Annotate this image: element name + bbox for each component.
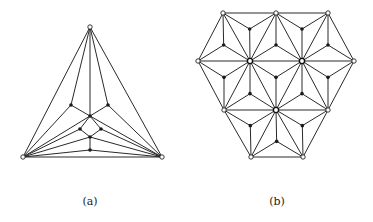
- edge: [276, 13, 302, 61]
- edge: [223, 13, 250, 61]
- vertex-open: [301, 155, 305, 159]
- vertex-open: [160, 155, 164, 159]
- edge: [198, 13, 223, 61]
- vertex-filled: [326, 76, 330, 80]
- edge: [71, 105, 90, 116]
- edge: [23, 27, 90, 157]
- panel-label-b: (b): [269, 195, 285, 208]
- edge: [90, 116, 101, 129]
- vertex-open: [274, 11, 278, 15]
- edge: [302, 126, 303, 157]
- edge: [302, 13, 328, 61]
- edge: [198, 61, 224, 110]
- vertex-filled: [248, 92, 252, 96]
- vertex-filled: [88, 135, 92, 139]
- edge: [224, 110, 251, 157]
- vertex-open: [299, 58, 304, 63]
- vertex-filled: [222, 43, 226, 47]
- edge: [250, 61, 276, 110]
- vertex-filled: [301, 124, 305, 128]
- edge: [328, 61, 354, 110]
- edge: [80, 129, 90, 137]
- vertex-open: [273, 107, 278, 112]
- edge: [71, 27, 90, 105]
- vertex-filled: [88, 148, 92, 152]
- panel-label-a: (a): [82, 195, 97, 208]
- vertex-filled: [274, 43, 278, 47]
- vertex-filled: [69, 103, 73, 107]
- edge: [224, 61, 250, 110]
- vertex-open: [249, 155, 253, 159]
- vertex-filled: [274, 76, 278, 80]
- vertex-filled: [222, 76, 226, 80]
- vertex-open: [221, 11, 225, 15]
- vertex-open: [326, 11, 330, 15]
- edge: [276, 110, 303, 157]
- edge: [90, 105, 108, 116]
- edge: [250, 13, 276, 61]
- edge: [90, 27, 162, 157]
- vertex-filled: [275, 140, 279, 144]
- edge: [223, 13, 224, 45]
- figure-canvas: [0, 0, 373, 222]
- vertex-open: [352, 59, 356, 63]
- vertex-open: [21, 155, 25, 159]
- vertex-filled: [248, 27, 252, 31]
- edge: [80, 116, 90, 129]
- edge: [90, 27, 108, 105]
- vertex-filled: [106, 103, 110, 107]
- vertex-filled: [78, 127, 82, 131]
- edge: [90, 129, 101, 137]
- vertex-open: [88, 25, 92, 29]
- vertex-filled: [249, 124, 253, 128]
- edge: [328, 13, 354, 61]
- edge: [276, 61, 302, 110]
- vertex-open: [196, 59, 200, 63]
- vertex-filled: [326, 43, 330, 47]
- edge: [302, 61, 328, 110]
- vertex-filled: [99, 127, 103, 131]
- vertex-filled: [300, 92, 304, 96]
- graph-b: [196, 11, 356, 159]
- graph-a: [21, 25, 164, 159]
- vertex-filled: [300, 27, 304, 31]
- edge: [276, 110, 277, 141]
- vertex-filled: [88, 114, 92, 118]
- vertex-open: [247, 58, 252, 63]
- vertex-open: [326, 108, 330, 112]
- vertex-open: [222, 108, 226, 112]
- edge: [250, 126, 251, 157]
- edge: [23, 105, 71, 157]
